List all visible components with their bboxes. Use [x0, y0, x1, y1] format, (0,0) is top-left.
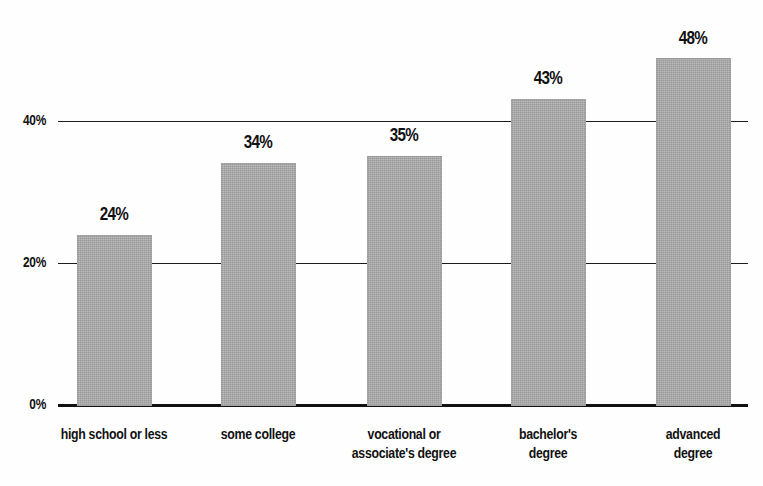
category-label-advanced-degree: advanced degree: [619, 424, 763, 462]
category-label-bachelors-degree: bachelor's degree: [474, 424, 622, 462]
category-label-line2: associate's degree: [330, 443, 478, 462]
category-label-line1: bachelor's: [519, 425, 577, 442]
category-label-some-college: some college: [184, 424, 332, 443]
ytick-label-20: 20%: [8, 254, 46, 270]
bar-vocational-or-associates-degree: [367, 156, 442, 406]
gridline-40: [58, 121, 748, 122]
bar-value-advanced-degree: 48%: [653, 27, 733, 49]
plot-area: 40% 20% 0% 24% high school or less 34% s…: [0, 0, 763, 486]
bar-value-high-school-or-less: 24%: [74, 203, 154, 225]
bar-some-college: [221, 163, 296, 406]
ytick-label-0: 0%: [8, 396, 46, 412]
category-label-line2: degree: [619, 443, 763, 462]
category-label-line2: degree: [474, 443, 622, 462]
category-label-line1: vocational or: [368, 425, 441, 442]
category-label-line1: advanced: [666, 425, 720, 442]
category-label-line1: high school or less: [61, 425, 168, 442]
category-label-high-school-or-less: high school or less: [40, 424, 188, 443]
bar-high-school-or-less: [77, 235, 152, 406]
bar-chart: percent who say a college degree is nece…: [0, 0, 763, 486]
bar-value-vocational-or-associates-degree: 35%: [364, 124, 444, 146]
category-label-line1: some college: [221, 425, 295, 442]
bar-bachelors-degree: [511, 99, 586, 406]
bar-advanced-degree: [656, 58, 731, 406]
bar-value-some-college: 34%: [218, 131, 298, 153]
category-label-vocational-or-associates-degree: vocational or associate's degree: [330, 424, 478, 462]
ytick-label-40: 40%: [8, 112, 46, 128]
bar-value-bachelors-degree: 43%: [508, 67, 588, 89]
